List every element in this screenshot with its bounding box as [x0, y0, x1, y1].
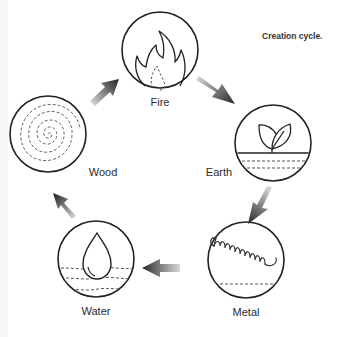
diagram-caption: Creation cycle.: [262, 31, 322, 41]
arrow-wood-to-fire: [90, 79, 119, 106]
label-earth: Earth: [206, 166, 232, 178]
arrow-metal-to-water: [142, 259, 180, 277]
element-water: [56, 221, 136, 297]
fire-circle: [122, 12, 198, 88]
label-water: Water: [82, 305, 111, 317]
arrow-earth-to-metal: [248, 186, 272, 224]
arrow-fire-to-earth: [196, 76, 235, 104]
metal-circle: [208, 222, 284, 298]
label-metal: Metal: [233, 306, 260, 318]
element-wood: [10, 96, 86, 172]
element-earth: [232, 105, 314, 181]
element-fire: [122, 12, 198, 90]
creation-cycle-diagram: [0, 0, 339, 337]
arrow-water-to-wood: [53, 193, 76, 219]
element-metal: [205, 222, 290, 298]
label-wood: Wood: [89, 166, 118, 178]
label-fire: Fire: [151, 96, 170, 108]
